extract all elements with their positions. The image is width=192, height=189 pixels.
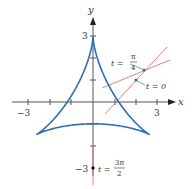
- label-t-zero: t = 0: [146, 82, 166, 91]
- deltoid-diagram: y x −3 3 3 −3 t = π 4 t = 0 t = 3π 2: [0, 0, 192, 189]
- point-t-3pi-over-2: [91, 166, 95, 170]
- svg-text:t =: t =: [98, 165, 110, 174]
- label-t-3pi-over-2: t = 3π 2: [98, 159, 125, 178]
- y-tick-neg3: −3: [75, 164, 89, 174]
- y-axis-label: y: [87, 4, 94, 15]
- x-axis-label: x: [178, 96, 184, 107]
- svg-text:2: 2: [117, 170, 121, 178]
- point-t-pi-over-4: [142, 68, 145, 71]
- svg-text:t =: t =: [111, 59, 123, 68]
- x-axis: [12, 99, 176, 105]
- svg-text:3π: 3π: [115, 159, 124, 167]
- y-tick-3: 3: [82, 31, 88, 41]
- x-tick-neg3: −3: [17, 108, 31, 118]
- svg-text:π: π: [131, 53, 136, 61]
- x-tick-3: 3: [154, 108, 160, 118]
- svg-text:4: 4: [131, 64, 136, 72]
- label-t-pi-over-4: t = π 4: [111, 53, 137, 72]
